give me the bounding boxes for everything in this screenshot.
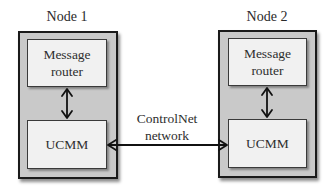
network-label: ControlNet network (107, 110, 227, 144)
node-1-title: Node 1 (17, 9, 117, 25)
node-2-message-router-label-line2: router (244, 62, 291, 79)
node-1-message-router-label-line1: Message (43, 46, 90, 63)
network-label-line1: ControlNet (107, 110, 227, 127)
node-2-ucmm-label: UCMM (246, 135, 289, 152)
node-1-message-router: Message router (27, 39, 107, 87)
node-2-message-router: Message router (228, 38, 307, 86)
node-2-title: Node 2 (217, 9, 317, 25)
node-1-ucmm-label: UCMM (46, 136, 89, 153)
network-label-line2: network (107, 127, 227, 144)
node-2-ucmm: UCMM (228, 119, 307, 168)
node-1-ucmm: UCMM (27, 120, 107, 169)
node-2-message-router-label-line1: Message (244, 45, 291, 62)
node-1-message-router-label-line2: router (43, 63, 90, 80)
